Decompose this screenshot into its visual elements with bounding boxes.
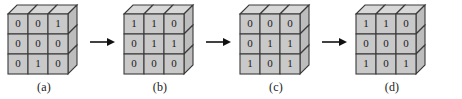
- cell-digit: 1: [171, 37, 177, 49]
- cell-digit: 0: [55, 37, 61, 49]
- arrow-head: [339, 38, 347, 46]
- figure-binary-cube-sequence: 001000010(a)110011000(b)000011101(c)1100…: [0, 0, 462, 99]
- cube-group-b: 110011000(b): [116, 0, 204, 99]
- cell-digit: 1: [55, 17, 61, 29]
- arrow-head: [107, 38, 115, 46]
- cell-digit: 0: [131, 37, 137, 49]
- cell-digit: 0: [287, 17, 293, 29]
- cell-digit: 0: [15, 37, 21, 49]
- cell-digit: 0: [15, 57, 21, 69]
- cube-block: 001000010: [5, 2, 83, 82]
- cell-digit: 0: [383, 37, 389, 49]
- cell-digit: 0: [247, 37, 253, 49]
- cell-digit: 0: [171, 17, 177, 29]
- cell-digit: 1: [287, 57, 293, 69]
- right-arrow-icon: [88, 36, 116, 48]
- cell-digit: 1: [131, 17, 137, 29]
- cube-sequence-stage: 001000010(a)110011000(b)000011101(c)1100…: [0, 0, 462, 99]
- arrow-group: [88, 0, 116, 99]
- cell-digit: 0: [151, 57, 157, 69]
- arrow-group: [320, 0, 348, 99]
- cell-digit: 1: [287, 37, 293, 49]
- cell-digit: 0: [55, 57, 61, 69]
- cube-caption: (b): [116, 80, 204, 95]
- cube-group-a: 001000010(a): [0, 0, 88, 99]
- arrow-head: [223, 38, 231, 46]
- cell-digit: 0: [35, 37, 41, 49]
- cell-digit: 0: [247, 17, 253, 29]
- cube-block: 110011000: [121, 2, 199, 82]
- cell-digit: 1: [363, 57, 369, 69]
- cell-digit: 0: [267, 17, 273, 29]
- right-arrow-icon: [320, 36, 348, 48]
- cell-digit: 1: [363, 17, 369, 29]
- cube-caption: (d): [348, 80, 436, 95]
- cell-digit: 1: [383, 17, 389, 29]
- cube-caption: (a): [0, 80, 88, 95]
- cube-group-c: 000011101(c): [232, 0, 320, 99]
- cube-block: 000011101: [237, 2, 315, 82]
- cell-digit: 1: [151, 37, 157, 49]
- cell-digit: 1: [151, 17, 157, 29]
- cell-digit: 0: [403, 37, 409, 49]
- arrow-group: [204, 0, 232, 99]
- right-arrow-icon: [204, 36, 232, 48]
- cell-digit: 1: [247, 57, 253, 69]
- cell-digit: 1: [403, 57, 409, 69]
- cell-digit: 0: [131, 57, 137, 69]
- cube-block: 110000101: [353, 2, 431, 82]
- cell-digit: 0: [403, 17, 409, 29]
- cell-digit: 1: [35, 57, 41, 69]
- cell-digit: 0: [15, 17, 21, 29]
- cell-digit: 0: [171, 57, 177, 69]
- cell-digit: 0: [267, 57, 273, 69]
- cell-digit: 0: [383, 57, 389, 69]
- cell-digit: 0: [363, 37, 369, 49]
- cube-caption: (c): [232, 80, 320, 95]
- cell-digit: 1: [267, 37, 273, 49]
- cube-group-d: 110000101(d): [348, 0, 436, 99]
- cell-digit: 0: [35, 17, 41, 29]
